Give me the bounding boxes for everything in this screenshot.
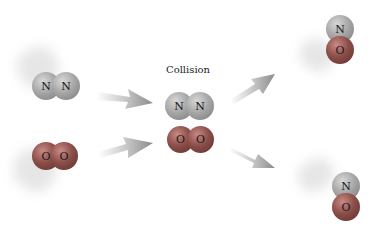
nitrogen-atom: N [186, 92, 214, 120]
arrow-n2-to-collision [96, 89, 153, 109]
oxygen-atom: O [50, 142, 78, 170]
collision-label: Collision [166, 64, 210, 75]
oxygen-atom: O [326, 36, 354, 64]
oxygen-atom: O [332, 193, 360, 221]
arrow-collision-to-no-bottom [229, 147, 275, 168]
nitrogen-atom: N [52, 72, 80, 100]
oxygen-atom: O [187, 126, 214, 153]
arrow-o2-to-collision [98, 137, 153, 158]
arrow-collision-to-no-top [230, 74, 275, 104]
